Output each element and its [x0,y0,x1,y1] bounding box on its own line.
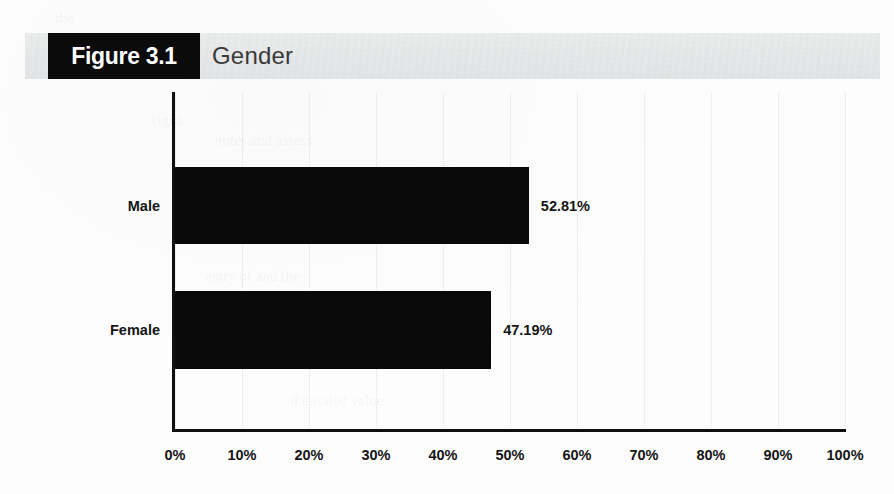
x-tick-label-90: 90% [748,447,808,463]
page-bleed-through-text: notes and assess [215,132,313,149]
gridline-10 [242,93,244,430]
bar-category-label-male: Male [60,198,160,214]
gridline-70 [644,93,646,430]
gridline-0 [175,93,177,430]
gridline-100 [845,93,847,430]
bar-category-label-female: Female [60,322,160,338]
x-tick-label-10: 10% [212,447,272,463]
page-bleed-through-text: the [55,10,73,27]
gridline-60 [577,93,579,430]
page-bleed-through-text: the stated value [290,392,383,409]
gridline-20 [309,93,311,430]
x-tick-label-100: 100% [815,447,875,463]
gridline-90 [778,93,780,430]
x-tick-label-50: 50% [480,447,540,463]
x-tick-label-20: 20% [279,447,339,463]
figure-title: Gender [212,33,293,79]
bar-value-label-female: 47.19% [503,322,552,338]
gridline-30 [376,93,378,430]
page-bleed-through-text: vigna [150,112,183,129]
page-bleed-through-text: entry of and the [205,268,300,285]
y-axis-line [172,92,175,432]
bar-value-label-male: 52.81% [541,198,590,214]
gridline-80 [711,93,713,430]
x-tick-label-80: 80% [681,447,741,463]
bar-female [175,291,491,369]
gridline-40 [443,93,445,430]
x-tick-label-0: 0% [145,447,205,463]
bar-male [175,167,529,244]
gridline-50 [510,93,512,430]
x-tick-label-40: 40% [413,447,473,463]
figure-number-label: Figure 3.1 [71,45,177,68]
figure-number-badge: Figure 3.1 [48,33,200,79]
x-axis-line [172,429,846,432]
x-tick-label-70: 70% [614,447,674,463]
x-tick-label-60: 60% [547,447,607,463]
x-tick-label-30: 30% [346,447,406,463]
